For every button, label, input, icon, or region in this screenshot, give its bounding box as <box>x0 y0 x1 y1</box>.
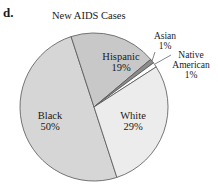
leader-line-asian <box>152 52 155 61</box>
label-black: Black 50% <box>30 110 70 132</box>
label-asian: Asian 1% <box>150 31 180 51</box>
label-native-american: Native American 1% <box>166 50 216 80</box>
pie-chart <box>0 0 218 194</box>
label-hispanic: Hispanic 19% <box>96 51 146 73</box>
label-white: White 29% <box>113 110 153 132</box>
